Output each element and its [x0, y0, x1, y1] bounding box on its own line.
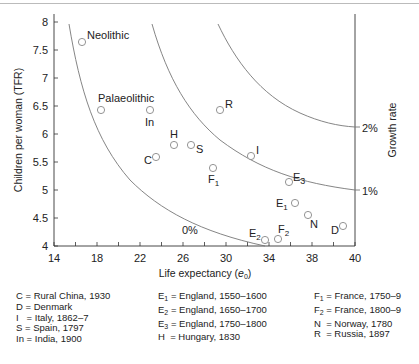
y-tick-label: 6.5 — [33, 100, 48, 112]
label-d: D — [331, 224, 339, 236]
data-point-f1 — [209, 164, 216, 171]
y-axis-title: Children per woman (TFR) — [12, 68, 24, 192]
right-axis-title: Growth rate — [386, 102, 398, 157]
data-point-e2 — [261, 236, 268, 243]
legend-item: In = India, 1900 — [16, 334, 110, 345]
x-tick-label: 26 — [177, 252, 189, 264]
data-point-d — [339, 222, 346, 229]
legend-item: E1 = England, 1550–1600 — [158, 291, 267, 305]
curve-2pct — [218, 24, 355, 127]
legend-item: R = Russia, 1897 — [314, 329, 401, 340]
label-neolithic: Neolithic — [87, 29, 130, 41]
label-e1: E1 — [276, 197, 288, 212]
x-tick-label: 38 — [306, 252, 318, 264]
data-point-e1 — [291, 199, 298, 206]
point-labels: Neolithic Palaeolithic In H S C R F1 I E… — [87, 29, 339, 242]
label-h: H — [170, 128, 178, 140]
data-point-i — [247, 152, 254, 159]
x-tick-label: 14 — [48, 252, 60, 264]
data-point-e3 — [285, 178, 292, 185]
x-tick-label: 40 — [349, 252, 361, 264]
y-tick-label: 6 — [42, 128, 48, 140]
legend-col-3: F1 = France, 1750–9F2 = France, 1800–9N … — [314, 291, 401, 340]
legend-col-1: C = Rural China, 1930D = DenmarkI = Ital… — [16, 291, 110, 345]
data-point-h — [170, 141, 177, 148]
curve-1pct — [152, 24, 355, 190]
label-f1: F1 — [208, 173, 220, 188]
x-axis-ticks: 1418222630343840 — [48, 242, 361, 264]
x-axis-title: Life expectancy (e0) — [159, 267, 252, 280]
label-e2: E2 — [249, 227, 261, 242]
curve-label-1pct: 1% — [362, 185, 378, 197]
label-r: R — [225, 98, 233, 110]
data-point-palaeolithic — [97, 106, 104, 113]
curve-0pct — [69, 24, 265, 246]
label-n: N — [310, 218, 318, 230]
growth-curves — [69, 24, 360, 246]
x-tick-label: 22 — [134, 252, 146, 264]
axes — [54, 14, 355, 246]
data-point-neolithic — [78, 38, 85, 45]
legend-item: F2 = France, 1800–9 — [314, 305, 401, 319]
data-point-f2 — [274, 235, 281, 242]
y-tick-label: 5 — [42, 184, 48, 196]
label-c: C — [144, 154, 152, 166]
label-in: In — [145, 116, 154, 128]
y-tick-label: 8 — [42, 16, 48, 28]
x-tick-label: 34 — [263, 252, 275, 264]
curve-label-0pct: 0% — [182, 224, 198, 236]
y-tick-label: 7.5 — [33, 44, 48, 56]
legend-col-2: E1 = England, 1550–1600E2 = England, 165… — [158, 291, 267, 343]
y-tick-label: 7 — [42, 72, 48, 84]
data-point-r — [216, 106, 223, 113]
legend-item: H = Hungary, 1830 — [158, 332, 267, 343]
y-tick-label: 4 — [42, 240, 48, 252]
x-tick-label: 18 — [91, 252, 103, 264]
label-palaeolithic: Palaeolithic — [98, 92, 155, 104]
data-points — [78, 38, 346, 243]
label-s: S — [196, 143, 203, 155]
label-i: I — [256, 144, 259, 156]
y-tick-label: 5.5 — [33, 156, 48, 168]
label-e3: E3 — [293, 171, 305, 186]
data-point-c — [152, 153, 159, 160]
data-point-s — [187, 141, 194, 148]
curve-label-2pct: 2% — [362, 122, 378, 134]
legend-item: E2 = England, 1650–1700 — [158, 305, 267, 319]
y-tick-label: 4.5 — [33, 212, 48, 224]
x-tick-label: 30 — [220, 252, 232, 264]
legend-item: E3 = England, 1750–1800 — [158, 319, 267, 333]
legend-item: F1 = France, 1750–9 — [314, 291, 401, 305]
data-point-in — [146, 106, 153, 113]
